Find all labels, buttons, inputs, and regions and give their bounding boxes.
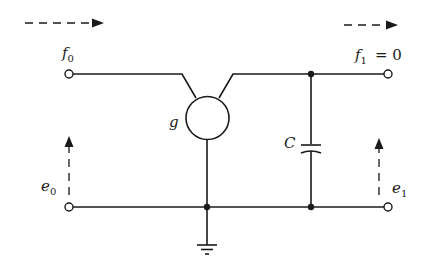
label-e1: e1 (392, 179, 407, 199)
output-effort-arrow (375, 138, 384, 195)
top-left-wire (73, 74, 196, 98)
ground-symbol (197, 207, 217, 254)
label-f0: f0 (61, 44, 74, 64)
output-flow-arrow (344, 21, 398, 30)
circuit-diagram: f0 f1= 0 e0 e1 g C (0, 0, 432, 262)
terminal-e1 (384, 203, 392, 211)
terminal-e0 (65, 203, 73, 211)
terminal-f0 (65, 70, 73, 78)
junction-dot (308, 204, 314, 210)
label-f1: f1= 0 (354, 46, 402, 66)
gyrator-element (186, 97, 229, 140)
label-e0: e0 (41, 177, 56, 197)
junction-dot (308, 71, 314, 77)
label-gyrator: g (169, 113, 179, 131)
input-flow-arrow (25, 19, 104, 28)
label-capacitor: C (284, 134, 296, 152)
junction-dot (204, 204, 210, 210)
terminal-f1 (384, 70, 392, 78)
top-right-wire (219, 74, 384, 98)
input-effort-arrow (65, 136, 74, 195)
